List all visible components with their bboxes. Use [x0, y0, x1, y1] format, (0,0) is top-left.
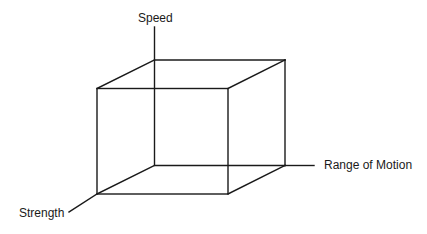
bottom-right-connector — [228, 166, 285, 195]
top-left-connector — [97, 60, 155, 89]
speed-label: Speed — [138, 11, 173, 25]
bottom-left-connector — [97, 166, 155, 195]
strength-label: Strength — [19, 206, 64, 220]
top-right-connector — [228, 60, 285, 89]
front-face — [97, 89, 228, 195]
strength-axis — [69, 194, 97, 212]
range-of-motion-label: Range of Motion — [324, 158, 412, 172]
cube-diagram — [0, 0, 427, 234]
